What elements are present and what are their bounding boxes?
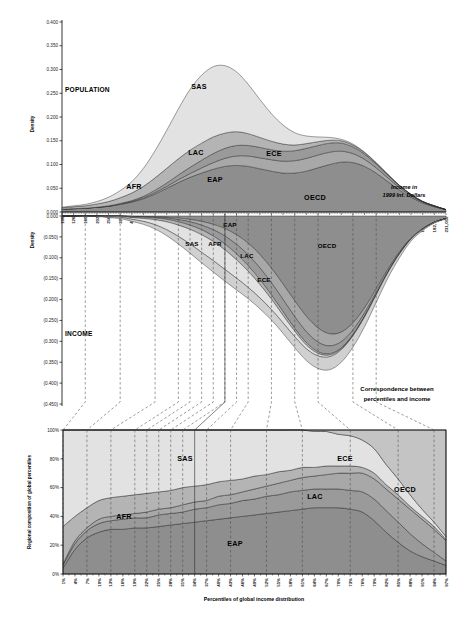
- percentile-tick-label: 76%: [360, 578, 365, 587]
- figure-root: 0.4000.3500.3000.2500.2000.1500.1000.050…: [0, 0, 454, 618]
- y-tick-label: (0.100): [43, 255, 58, 260]
- y-tick-label: (0.150): [43, 276, 58, 281]
- percentile-tick-label: 40%: [216, 578, 221, 587]
- population-region-label-lac: LAC: [188, 148, 204, 157]
- composition-y-axis-title: Regional composition of global percentil…: [27, 455, 32, 549]
- composition-region-label-afr: AFR: [116, 512, 132, 521]
- percentile-tick-label: 4%: [73, 578, 78, 584]
- composition-bands: [63, 430, 446, 574]
- income-y-axis-title: Density: [30, 231, 35, 248]
- income-region-label-afr: AFR: [208, 240, 222, 247]
- y-tick-label: 0.350: [47, 43, 59, 48]
- three-panel-density-figure: 0.4000.3500.3000.2500.2000.1500.1000.050…: [0, 0, 454, 618]
- y-tick-label: (0.300): [43, 339, 58, 344]
- y-tick-label: 100%: [47, 428, 59, 433]
- percentile-tick-label: 97%: [444, 578, 449, 587]
- income-tick-label: 126: [71, 216, 76, 224]
- percentile-tick-label: 88%: [408, 578, 413, 587]
- percentile-tick-label: 7%: [85, 578, 90, 584]
- percentile-tick-label: 85%: [396, 578, 401, 587]
- connector-line: [87, 214, 120, 430]
- y-tick-label: (0.350): [43, 360, 58, 365]
- percentile-tick-label: 22%: [144, 578, 149, 587]
- percentile-tick-label: 82%: [384, 578, 389, 587]
- percentile-tick-label: 13%: [108, 578, 113, 587]
- income-panel: 0.000(0.050)(0.100)(0.150)(0.200)(0.250)…: [30, 212, 446, 407]
- y-tick-label: 0.200: [47, 115, 59, 120]
- composition-region-label-sas: SAS: [177, 454, 193, 463]
- y-tick-label: (0.250): [43, 318, 58, 323]
- composition-region-label-lac: LAC: [307, 492, 323, 501]
- percentile-tick-label: 19%: [132, 578, 137, 587]
- percentile-tick-label: 61%: [300, 578, 305, 587]
- percentile-tick-label: 46%: [240, 578, 245, 587]
- composition-region-label-eap: EAP: [227, 539, 243, 548]
- income-units-line1: Income in: [391, 184, 418, 190]
- percentile-tick-label: 58%: [288, 578, 293, 587]
- population-region-label-oecd: OECD: [304, 193, 326, 202]
- population-region-label-afr: AFR: [126, 182, 142, 191]
- percentile-tick-label: 73%: [348, 578, 353, 587]
- income-region-label-eap: EAP: [223, 221, 236, 228]
- y-tick-label: 80%: [50, 457, 59, 462]
- income-region-label-oecd: OECD: [318, 242, 337, 249]
- percentile-tick-label: 70%: [336, 578, 341, 587]
- income-region-label-sas: SAS: [185, 240, 198, 247]
- percentile-tick-label: 49%: [252, 578, 257, 587]
- income-bands: [62, 216, 446, 370]
- connector-line: [111, 214, 155, 430]
- composition-region-label-oecd: OECD: [394, 485, 416, 494]
- percentile-tick-label: 79%: [372, 578, 377, 587]
- connector-line: [135, 214, 179, 430]
- population-region-label-sas: SAS: [191, 82, 207, 91]
- percentile-tick-label: 55%: [276, 578, 281, 587]
- percentile-tick-label: 34%: [192, 578, 197, 587]
- population-region-label-eap: EAP: [207, 175, 223, 184]
- y-tick-label: 60%: [50, 485, 59, 490]
- y-tick-label: 0.050: [47, 186, 59, 191]
- correspondence-note-line2: percentiles and income: [364, 396, 431, 402]
- percentile-tick-label: 52%: [264, 578, 269, 587]
- percentile-tick-label: 1%: [61, 578, 66, 584]
- population-region-label-ece: ECE: [266, 149, 282, 158]
- percentile-tick-label: 91%: [420, 578, 425, 587]
- population-panel-label: POPULATION: [65, 86, 110, 93]
- income-panel-label: INCOME: [65, 330, 93, 337]
- percentile-tick-label: 64%: [312, 578, 317, 587]
- y-tick-label: 20%: [50, 543, 59, 548]
- y-tick-label: (0.050): [43, 235, 58, 240]
- percentile-tick-label: 25%: [156, 578, 161, 587]
- y-tick-label: 0.000: [47, 214, 59, 219]
- y-tick-label: 0.100: [47, 162, 59, 167]
- composition-x-axis-title: Percentiles of global income distributio…: [204, 596, 304, 602]
- percentile-tick-label: 28%: [168, 578, 173, 587]
- percentile-tick-label: 31%: [180, 578, 185, 587]
- correspondence-note-line1: Correspondence between: [360, 386, 434, 392]
- y-tick-label: (0.400): [43, 381, 58, 386]
- percentile-tick-label: 37%: [204, 578, 209, 587]
- percentile-tick-label: 10%: [97, 578, 102, 587]
- percentile-tick-label: 67%: [324, 578, 329, 587]
- y-tick-label: 40%: [50, 514, 59, 519]
- income-region-label-lac: LAC: [240, 252, 254, 259]
- population-panel: 0.4000.3500.3000.2500.2000.1500.1000.050…: [30, 20, 446, 215]
- y-tick-label: 0.250: [47, 91, 59, 96]
- connector-line: [63, 214, 85, 430]
- income-region-label-ece: ECE: [257, 276, 270, 283]
- percentile-tick-label: 94%: [432, 578, 437, 587]
- composition-x-axis: 1%4%7%10%13%16%19%22%25%28%31%34%37%40%4…: [61, 574, 449, 587]
- income-units-line2: 1999 Int. Dollars: [383, 192, 426, 198]
- y-tick-label: 0%: [52, 572, 59, 577]
- y-tick-label: 0.400: [47, 20, 59, 25]
- percentile-tick-label: 43%: [228, 578, 233, 587]
- y-tick-label: (0.200): [43, 297, 58, 302]
- population-bands: [62, 65, 446, 212]
- percentile-tick-label: 16%: [120, 578, 125, 587]
- y-tick-label: 0.300: [47, 67, 59, 72]
- composition-panel: 100%80%60%40%20%0%Regional composition o…: [27, 428, 449, 602]
- income-tick-label: 202: [95, 216, 100, 224]
- population-y-axis-title: Density: [30, 115, 35, 132]
- y-tick-label: 0.150: [47, 138, 59, 143]
- y-tick-label: (0.450): [43, 402, 58, 407]
